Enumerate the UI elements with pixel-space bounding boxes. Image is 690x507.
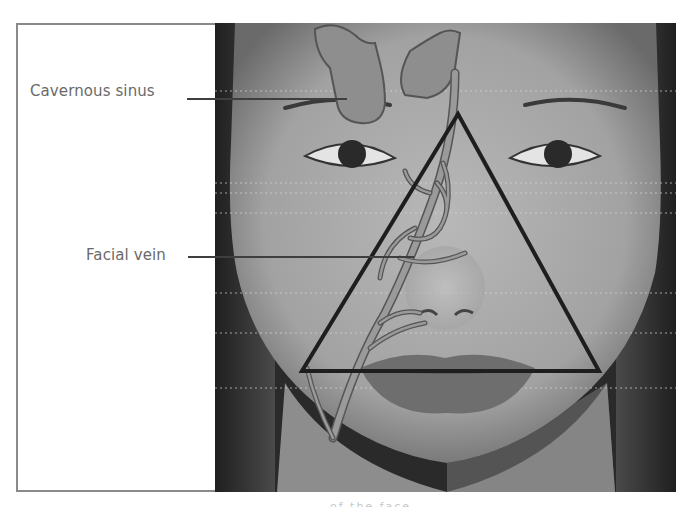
figure-caption-fragment: of the face [330,497,411,507]
label-cavernous-sinus: Cavernous sinus [30,82,155,100]
facial-vein-leader-line [188,256,414,258]
label-facial-vein: Facial vein [86,246,166,264]
cavernous-sinus-leader-line [187,98,347,100]
